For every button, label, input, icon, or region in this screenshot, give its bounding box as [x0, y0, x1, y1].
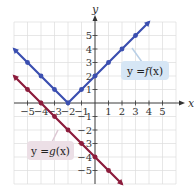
f-label-prefix: y = — [127, 65, 145, 77]
x-axis-label: x — [188, 97, 194, 110]
svg-text:2: 2 — [119, 106, 125, 117]
svg-text:4: 4 — [86, 44, 92, 55]
svg-text:4: 4 — [146, 106, 152, 117]
svg-text:3: 3 — [132, 106, 138, 117]
g-label-prefix: y = — [31, 145, 49, 157]
svg-text:1: 1 — [105, 106, 111, 117]
g-label-fn: g — [49, 145, 56, 157]
g-label-arg: (x) — [56, 145, 70, 157]
svg-text:3: 3 — [86, 57, 92, 68]
f-legend-label: y = f(x) — [121, 61, 169, 80]
svg-text:5: 5 — [159, 106, 165, 117]
f-label-arg: (x) — [149, 65, 163, 77]
svg-text:−5: −5 — [77, 165, 92, 176]
y-axis-label: y — [91, 3, 99, 16]
coordinate-plane: −5−4−3−2−11234554321−1−2−3−4−5 x y — [0, 0, 194, 193]
svg-text:−2: −2 — [77, 125, 92, 136]
svg-text:−1: −1 — [77, 111, 92, 122]
g-legend-label: y = g(x) — [27, 141, 74, 160]
svg-text:5: 5 — [86, 30, 92, 41]
